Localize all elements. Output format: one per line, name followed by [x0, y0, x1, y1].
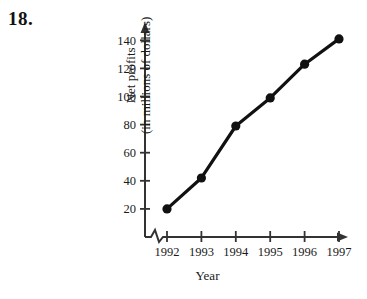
x-tick-label: 1994	[223, 245, 249, 259]
data-point-1992	[162, 204, 171, 213]
y-tick-label: 40	[124, 174, 137, 188]
chart-figure: 18. Net profits (in millions of dollars)…	[0, 0, 367, 299]
data-point-1993	[197, 173, 206, 182]
data-point-1994	[231, 121, 240, 130]
x-tick-label: 1996	[292, 245, 317, 259]
x-tick-label: 1992	[155, 245, 180, 259]
x-axis-title: Year	[0, 268, 367, 284]
x-tick-label: 1995	[258, 245, 283, 259]
x-tick-label: 1997	[327, 245, 352, 259]
data-point-1995	[266, 93, 275, 102]
data-series-net-profits	[162, 34, 343, 213]
y-axis-title: Net profits (in millions of dollars)	[123, 0, 154, 155]
x-tick-label: 1993	[189, 245, 214, 259]
problem-number: 18.	[8, 8, 33, 30]
line-chart-plot: 20406080100120140 1992199319941995199619…	[0, 0, 367, 299]
y-axis-title-line-1: Net profits	[123, 0, 138, 155]
y-axis-title-line-2: (in millions of dollars)	[138, 0, 153, 155]
x-axis: 199219931994199519961997	[145, 230, 352, 259]
data-point-1996	[300, 60, 309, 69]
data-point-1997	[334, 34, 343, 43]
y-tick-label: 20	[124, 202, 137, 216]
